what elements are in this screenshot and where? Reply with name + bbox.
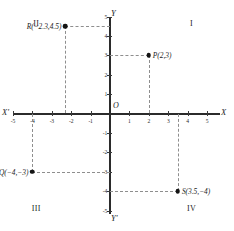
x-axis-tick-label: 2 (147, 118, 150, 124)
quadrant-label-i: I (190, 19, 193, 28)
y-axis-tick (107, 211, 112, 212)
guide-line-vertical-s (178, 114, 179, 192)
x-axis-tick (168, 111, 169, 116)
x-axis-tick-label: -3 (50, 118, 54, 124)
y-axis-tick (107, 36, 112, 37)
x-axis-tick (71, 111, 72, 116)
guide-line-horizontal-r (65, 26, 110, 27)
y-axis-tick-label: -5 (99, 208, 107, 214)
guide-line-vertical-p (149, 55, 150, 113)
x-axis-tick-label: -2 (69, 118, 73, 124)
x-axis-tick (188, 111, 189, 116)
point-label-q: Q(−4,−3) (0, 167, 28, 176)
point-label-p: P(2,3) (153, 51, 172, 60)
x-axis-tick-label: -1 (88, 118, 92, 124)
y-axis-tick (107, 17, 112, 18)
origin-label: O (113, 101, 119, 110)
x-axis-tick-label: 3 (167, 118, 170, 124)
point-label-r: R(−2.3,4.5) (27, 22, 62, 31)
guide-line-vertical-q (32, 114, 33, 172)
y-axis-tick-label: 3 (99, 52, 107, 58)
x-axis-negative-label: X' (2, 107, 9, 117)
x-axis-tick-label: 5 (206, 118, 209, 124)
y-axis-tick-label: -2 (99, 149, 107, 155)
x-axis-tick-label: -5 (11, 118, 15, 124)
y-axis-tick-label: 2 (99, 72, 107, 78)
x-axis-tick (52, 111, 53, 116)
y-axis-tick (107, 94, 112, 95)
y-axis-tick-label: -1 (99, 130, 107, 136)
x-axis-line (14, 113, 220, 115)
quadrant-label-iii: III (32, 204, 41, 213)
x-axis-positive-label: X (221, 107, 226, 117)
y-axis-negative-label: Y' (111, 213, 118, 223)
x-axis-tick-label: 1 (128, 118, 131, 124)
point-marker-r[interactable] (63, 24, 68, 29)
point-marker-s[interactable] (176, 189, 181, 194)
y-axis-tick-label: -4 (99, 188, 107, 194)
x-axis-tick (91, 111, 92, 116)
y-axis-tick-label: 1 (99, 91, 107, 97)
y-axis-tick (107, 133, 112, 134)
guide-line-horizontal-p (110, 55, 149, 56)
guide-line-horizontal-s (110, 191, 178, 192)
point-label-s: S(3.5,−4) (182, 187, 210, 196)
y-axis-tick-label: 4 (99, 33, 107, 39)
guide-line-vertical-r (65, 26, 66, 113)
y-axis-line (109, 18, 111, 214)
y-axis-tick (107, 152, 112, 153)
quadrant-label-iv: IV (187, 204, 196, 213)
coordinate-plane-figure: X X' Y Y' O -5-4-3-2-112345 54321-1-2-3-… (0, 0, 234, 231)
point-marker-p[interactable] (147, 53, 152, 58)
x-axis-tick (129, 111, 130, 116)
x-axis-tick (207, 111, 208, 116)
x-axis-tick-label: 4 (186, 118, 189, 124)
x-axis-tick (13, 111, 14, 116)
guide-line-horizontal-q (32, 172, 110, 173)
y-axis-tick-label: 5 (99, 14, 107, 20)
point-marker-q[interactable] (30, 169, 35, 174)
y-axis-tick (107, 75, 112, 76)
